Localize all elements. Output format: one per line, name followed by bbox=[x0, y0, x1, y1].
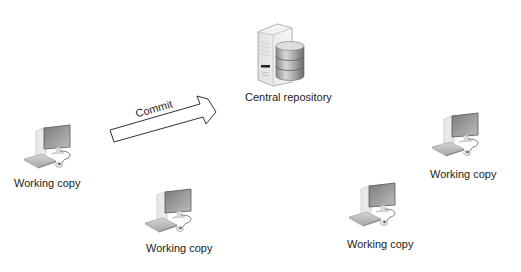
central-repository-label: Central repository bbox=[245, 91, 332, 103]
working-copy-node bbox=[345, 183, 401, 229]
central-repository-node bbox=[255, 20, 315, 84]
computer-icon bbox=[141, 189, 197, 235]
working-copy-label: Working copy bbox=[347, 238, 413, 250]
computer-icon bbox=[20, 125, 76, 171]
working-copy-node bbox=[428, 113, 484, 159]
working-copy-node bbox=[20, 125, 76, 171]
working-copy-label: Working copy bbox=[14, 177, 80, 189]
server-database-icon bbox=[255, 20, 315, 84]
computer-icon bbox=[428, 113, 484, 159]
computer-icon bbox=[345, 183, 401, 229]
working-copy-node bbox=[141, 189, 197, 235]
working-copy-label: Working copy bbox=[146, 242, 212, 254]
working-copy-label: Working copy bbox=[430, 168, 496, 180]
